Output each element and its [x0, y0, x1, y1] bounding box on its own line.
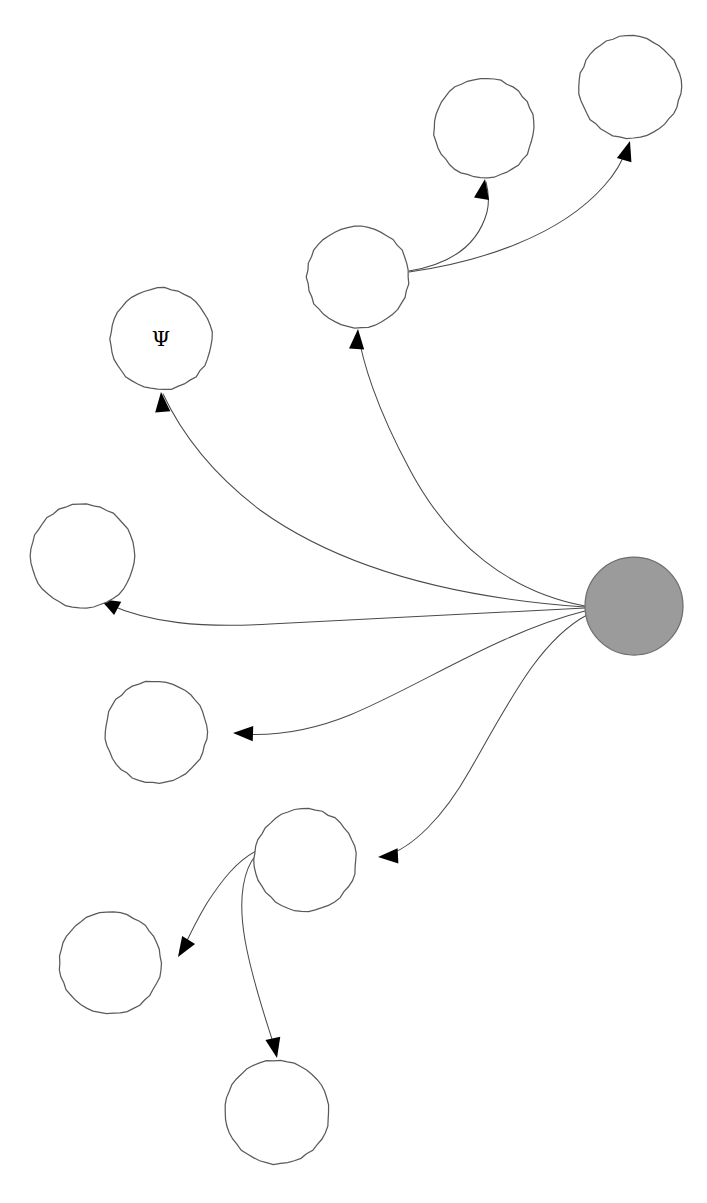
edge-upper-mid-to-top-mid-arrowhead — [474, 178, 492, 200]
psi-node-label: Ψ — [152, 327, 170, 351]
left-lower-leaf-node[interactable] — [105, 681, 208, 783]
edge-root-to-psi — [163, 394, 585, 607]
edge-lower-mid-to-bottom-left — [183, 851, 256, 949]
edge-root-to-left-low — [240, 611, 585, 735]
top-middle-leaf-node[interactable] — [434, 79, 534, 178]
left-middle-leaf-node[interactable] — [30, 504, 135, 608]
upper-mid-branch-node-shape — [306, 226, 409, 328]
edge-root-to-left-mid — [108, 604, 585, 625]
edge-root-to-lower-mid — [385, 615, 587, 856]
edge-root-to-psi-arrowhead — [153, 391, 170, 412]
bottom-left-leaf-node[interactable] — [59, 912, 161, 1014]
edge-root-to-upper-mid — [358, 332, 585, 606]
lower-mid-branch-node[interactable] — [254, 808, 356, 911]
edge-upper-mid-to-top-right-arrowhead — [617, 139, 637, 163]
edge-root-to-left-low-arrowhead — [233, 725, 254, 741]
left-lower-leaf-node-shape — [105, 681, 208, 783]
edge-lower-mid-to-bottom-arrowhead — [265, 1037, 284, 1060]
left-middle-leaf-node-shape — [30, 504, 135, 608]
graph-canvas: Ψ — [0, 0, 707, 1203]
psi-node[interactable]: Ψ — [110, 287, 213, 389]
bottom-left-leaf-node-shape — [59, 912, 161, 1014]
edge-root-to-upper-mid-arrowhead — [349, 328, 366, 349]
root-hub-node[interactable] — [585, 557, 683, 655]
upper-mid-branch-node[interactable] — [306, 226, 409, 328]
top-right-leaf-node-shape — [579, 35, 682, 138]
top-middle-leaf-node-shape — [434, 79, 534, 178]
edge-lower-mid-to-bottom-left-arrowhead — [172, 936, 195, 961]
edge-root-to-lower-mid-arrowhead — [378, 848, 399, 864]
bottom-leaf-node[interactable] — [225, 1060, 328, 1164]
bottom-leaf-node-shape — [225, 1060, 328, 1164]
graph-svg: Ψ — [0, 0, 707, 1203]
root-hub-node-shape — [585, 557, 683, 655]
top-right-leaf-node[interactable] — [579, 35, 682, 138]
lower-mid-branch-node-shape — [254, 808, 356, 911]
